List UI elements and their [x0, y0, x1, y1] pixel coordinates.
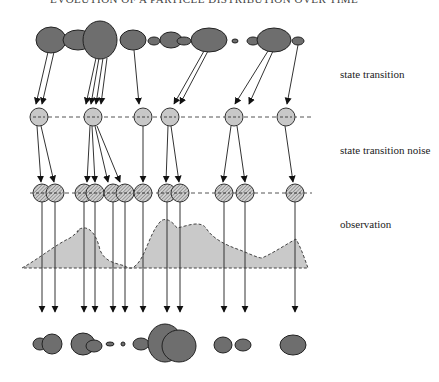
- noise-arrow: [95, 126, 108, 182]
- transition-arrow: [36, 52, 48, 104]
- noise-arrow: [97, 126, 120, 182]
- particle: [292, 37, 304, 45]
- transition-arrow: [42, 52, 54, 104]
- transition-arrow: [287, 45, 298, 104]
- noise-circle: [171, 184, 189, 202]
- label-observation: observation: [340, 218, 391, 230]
- noise-arrow: [166, 126, 168, 182]
- noise-arrow: [41, 126, 54, 182]
- transition-arrow: [174, 51, 204, 104]
- noise-arrow: [223, 126, 231, 182]
- noise-arrow: [92, 126, 95, 182]
- noise-arrow: [171, 126, 179, 182]
- state-transition-arrows: [36, 45, 298, 104]
- noise-circle: [236, 184, 254, 202]
- noise-circle: [86, 184, 104, 202]
- top-particle-set: [36, 21, 304, 59]
- particle: [36, 27, 66, 53]
- particle: [177, 37, 191, 45]
- particle: [280, 335, 306, 355]
- transition-arrow: [235, 51, 268, 104]
- particle-filter-diagram: [0, 0, 439, 382]
- particle: [42, 334, 62, 354]
- particle: [257, 28, 291, 52]
- bottom-particle-set: [33, 324, 306, 362]
- state-circle: [225, 108, 243, 126]
- noise-arrow: [285, 126, 293, 182]
- observation-density: [22, 220, 308, 268]
- observation-likelihood-area: [22, 220, 308, 268]
- transition-arrow: [134, 50, 139, 104]
- state-circle: [134, 108, 152, 126]
- particle: [232, 39, 238, 43]
- particle: [214, 337, 232, 353]
- noise-circle: [286, 184, 304, 202]
- transition-arrow: [249, 51, 273, 104]
- noise-arrow: [37, 126, 41, 182]
- transition-arrow: [180, 51, 208, 104]
- noise-arrow: [237, 126, 245, 182]
- particle: [120, 30, 146, 50]
- particle: [83, 21, 117, 59]
- particle: [121, 342, 125, 346]
- particle: [133, 338, 149, 350]
- particle: [235, 339, 251, 351]
- particle: [191, 28, 227, 52]
- noise-circle: [116, 184, 134, 202]
- noise-circle: [46, 184, 64, 202]
- particle: [106, 342, 114, 346]
- noise-circle: [215, 184, 233, 202]
- state-circle: [161, 108, 179, 126]
- state-circle: [84, 108, 102, 126]
- label-state-transition: state transition: [340, 68, 404, 80]
- state-circle: [277, 108, 295, 126]
- particle: [162, 330, 196, 362]
- noise-circle: [134, 184, 152, 202]
- noise-arrow: [87, 126, 90, 182]
- noise-arrows: [37, 126, 293, 182]
- particle: [86, 340, 102, 352]
- label-state-transition-noise: state transition noise: [340, 144, 430, 156]
- state-circle: [30, 108, 48, 126]
- particle: [148, 37, 160, 45]
